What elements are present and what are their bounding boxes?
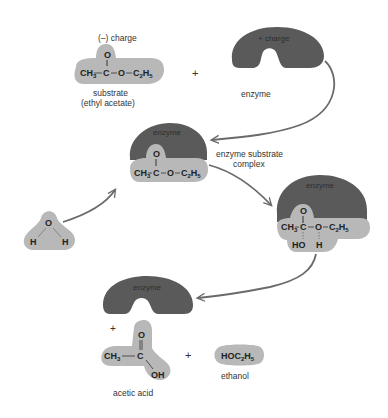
- water-molecule: O H H: [24, 211, 75, 250]
- atom-o: O: [315, 222, 322, 232]
- atom-c: C: [137, 351, 144, 361]
- atom-oh: OH: [151, 370, 165, 380]
- atom-h: H: [30, 237, 37, 247]
- atom-h: H: [62, 237, 69, 247]
- substrate-molecule: (–) charge O CH3 C O C2H5 substrate (eth…: [74, 33, 164, 108]
- plus-sign: +: [192, 67, 198, 79]
- complex-label: enzyme substrate: [216, 149, 283, 159]
- acetic-acid-label: acetic acid: [113, 388, 153, 398]
- atom-c: C: [300, 222, 307, 232]
- atom-ho: HO: [292, 240, 306, 250]
- arrow-hydrolysis: [209, 165, 271, 205]
- released-enzyme-shape: [103, 276, 193, 314]
- atom-o: O: [300, 206, 307, 216]
- complex-sublabel: complex: [233, 159, 265, 169]
- substrate-sublabel: (ethyl acetate): [81, 98, 135, 108]
- atom-h: H: [316, 240, 323, 250]
- atom-o: O: [138, 330, 145, 340]
- intermediate-enzyme-label: enzyme: [306, 181, 335, 190]
- arrow-binding: [212, 61, 334, 140]
- plus-sign: +: [110, 323, 116, 334]
- products: enzyme + O CH3 C OH acetic acid + HOC2H5…: [101, 276, 264, 398]
- enzyme-substrate-complex: enzyme O CH3 C O C2H5 enzyme substrate c…: [130, 123, 283, 182]
- enzyme-charge-label: + charge: [258, 34, 290, 43]
- plus-sign: +: [185, 349, 191, 361]
- atom-c: C: [103, 68, 110, 78]
- ethanol-label: ethanol: [221, 371, 249, 381]
- atom-o: O: [104, 50, 111, 60]
- ester-hydrolysis-diagram: (–) charge O CH3 C O C2H5 substrate (eth…: [0, 0, 388, 418]
- enzyme-free: + charge enzyme: [232, 27, 324, 99]
- atom-o: O: [153, 149, 160, 159]
- enzyme-label: enzyme: [241, 89, 271, 99]
- atom-o: O: [45, 218, 52, 228]
- atom-c: C: [153, 168, 160, 178]
- svg-text:HOC2H5: HOC2H5: [221, 351, 255, 362]
- complex-enzyme-label: enzyme: [153, 128, 182, 137]
- substrate-label: substrate: [93, 88, 128, 98]
- arrow-water: [63, 190, 115, 222]
- substrate-charge-label: (–) charge: [98, 33, 137, 43]
- tetrahedral-intermediate: enzyme O CH3 C O C2H5 HO H: [277, 175, 370, 252]
- products-enzyme-label: enzyme: [133, 283, 162, 292]
- arrow-release: [198, 254, 316, 298]
- atom-o: O: [167, 168, 174, 178]
- atom-o: O: [118, 68, 125, 78]
